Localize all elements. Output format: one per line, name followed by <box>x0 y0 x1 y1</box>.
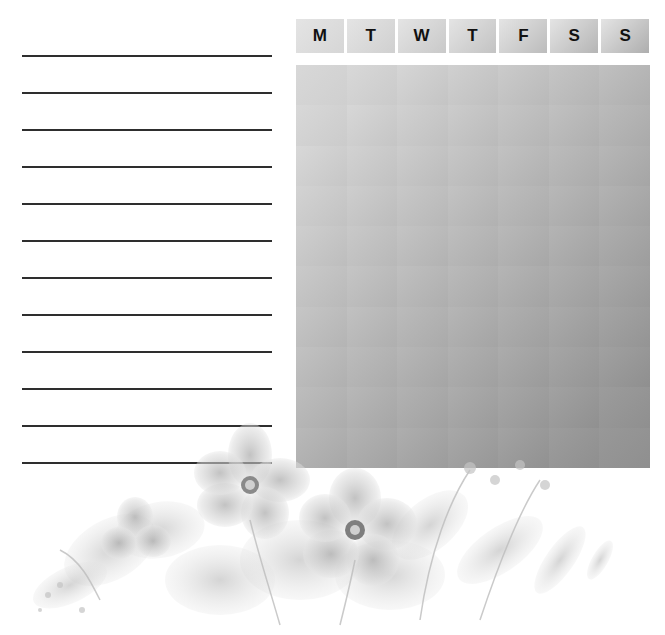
weekday-header: M T W T F S S <box>296 19 649 53</box>
tracker-cell[interactable] <box>549 186 600 226</box>
note-line[interactable] <box>22 277 272 279</box>
tracker-cell[interactable] <box>498 307 549 347</box>
tracker-cell[interactable] <box>448 186 499 226</box>
tracker-cell[interactable] <box>347 307 398 347</box>
tracker-cell[interactable] <box>397 226 448 266</box>
tracker-cell[interactable] <box>448 307 499 347</box>
note-line[interactable] <box>22 55 272 57</box>
tracker-cell[interactable] <box>347 186 398 226</box>
tracker-cell[interactable] <box>599 186 650 226</box>
tracker-cell[interactable] <box>397 307 448 347</box>
tracker-cell[interactable] <box>347 226 398 266</box>
tracker-cell[interactable] <box>498 226 549 266</box>
tracker-cell[interactable] <box>498 146 549 186</box>
tracker-cell[interactable] <box>397 146 448 186</box>
tracker-cell[interactable] <box>549 146 600 186</box>
note-line[interactable] <box>22 314 272 316</box>
note-line[interactable] <box>22 240 272 242</box>
day-header-wed: W <box>398 19 446 53</box>
tracker-cell[interactable] <box>599 226 650 266</box>
tracker-cell[interactable] <box>549 226 600 266</box>
note-line[interactable] <box>22 92 272 94</box>
tracker-cell[interactable] <box>347 347 398 387</box>
tracker-cell[interactable] <box>498 105 549 145</box>
tracker-grid <box>296 65 650 468</box>
note-line[interactable] <box>22 351 272 353</box>
tracker-cell[interactable] <box>599 65 650 105</box>
tracker-cell[interactable] <box>448 226 499 266</box>
note-line[interactable] <box>22 129 272 131</box>
tracker-cell[interactable] <box>448 146 499 186</box>
tracker-cell[interactable] <box>296 105 347 145</box>
tracker-cell[interactable] <box>296 146 347 186</box>
tracker-cell[interactable] <box>549 105 600 145</box>
flower-illustration <box>0 410 665 635</box>
tracker-cell[interactable] <box>347 105 398 145</box>
day-header-sat: S <box>550 19 598 53</box>
tracker-cell[interactable] <box>498 266 549 306</box>
tracker-cell[interactable] <box>397 186 448 226</box>
tracker-cell[interactable] <box>296 65 347 105</box>
tracker-cell[interactable] <box>599 105 650 145</box>
tracker-cell[interactable] <box>296 347 347 387</box>
tracker-cell[interactable] <box>448 347 499 387</box>
tracker-cell[interactable] <box>498 65 549 105</box>
tracker-cell[interactable] <box>448 105 499 145</box>
note-line[interactable] <box>22 203 272 205</box>
tracker-cell[interactable] <box>397 347 448 387</box>
tracker-cell[interactable] <box>599 307 650 347</box>
tracker-cell[interactable] <box>448 266 499 306</box>
tracker-cell[interactable] <box>347 146 398 186</box>
tracker-cell[interactable] <box>549 347 600 387</box>
tracker-cell[interactable] <box>296 307 347 347</box>
tracker-cell[interactable] <box>549 266 600 306</box>
tracker-cell[interactable] <box>397 65 448 105</box>
tracker-cell[interactable] <box>498 347 549 387</box>
day-header-fri: F <box>499 19 547 53</box>
tracker-cell[interactable] <box>498 186 549 226</box>
tracker-cell[interactable] <box>599 146 650 186</box>
tracker-cell[interactable] <box>448 65 499 105</box>
day-header-mon: M <box>296 19 344 53</box>
tracker-cell[interactable] <box>347 266 398 306</box>
tracker-cell[interactable] <box>397 266 448 306</box>
day-header-tue: T <box>347 19 395 53</box>
tracker-cell[interactable] <box>549 65 600 105</box>
day-header-thu: T <box>449 19 497 53</box>
tracker-cell[interactable] <box>599 266 650 306</box>
tracker-cell[interactable] <box>296 186 347 226</box>
tracker-cell[interactable] <box>397 105 448 145</box>
note-line[interactable] <box>22 388 272 390</box>
day-header-sun: S <box>601 19 649 53</box>
note-line[interactable] <box>22 166 272 168</box>
tracker-cell[interactable] <box>296 226 347 266</box>
tracker-cell[interactable] <box>599 347 650 387</box>
tracker-cell[interactable] <box>296 266 347 306</box>
tracker-cell[interactable] <box>347 65 398 105</box>
tracker-cell[interactable] <box>549 307 600 347</box>
